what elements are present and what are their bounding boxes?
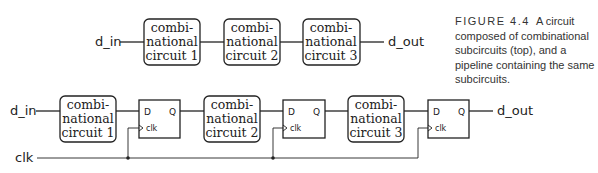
bot-box1-line2: national	[62, 111, 114, 126]
ff3-q-label: Q	[458, 107, 465, 117]
clk-junction-dot	[271, 156, 275, 160]
top-box3-line3: circuit 3	[305, 48, 358, 63]
bot-d-out-label: d_out	[497, 103, 533, 118]
ff1-q-label: Q	[169, 107, 176, 117]
bot-d-in-label: d_in	[10, 103, 37, 118]
ff3-d-label: D	[433, 107, 440, 117]
top-box1-line3: circuit 1	[146, 48, 199, 63]
ff1-clk-label: clk	[146, 124, 158, 133]
ff2-clk-label: clk	[290, 124, 302, 133]
bot-box2-line2: national	[206, 111, 258, 126]
bot-box1-line1: combi-	[67, 97, 110, 112]
clk-junction-dot	[126, 156, 130, 160]
figure-caption: FIGURE 4.4A circuit composed of combinat…	[455, 14, 598, 87]
top-box2-line1: combi-	[231, 20, 274, 35]
top-d-out-label: d_out	[388, 34, 424, 49]
top-box1-line1: combi-	[151, 20, 194, 35]
ff1-d-label: D	[144, 107, 151, 117]
ff2-q-label: Q	[313, 107, 320, 117]
clk-label: clk	[15, 150, 34, 165]
bot-box1-line3: circuit 1	[62, 125, 115, 140]
bot-box2-line1: combi-	[211, 97, 254, 112]
figure-number: FIGURE 4.4	[455, 15, 530, 27]
bot-box3-line3: circuit 3	[350, 125, 403, 140]
top-box1-line2: national	[146, 34, 198, 49]
bot-box3-line1: combi-	[355, 97, 398, 112]
ff3-clk-label: clk	[435, 124, 447, 133]
top-box3-line1: combi-	[310, 20, 353, 35]
top-d-in-label: d_in	[95, 34, 122, 49]
bot-box2-line3: circuit 2	[206, 125, 259, 140]
top-box2-line3: circuit 2	[226, 48, 279, 63]
top-box3-line2: national	[305, 34, 357, 49]
top-box2-line2: national	[226, 34, 278, 49]
bot-box3-line2: national	[350, 111, 402, 126]
ff2-d-label: D	[288, 107, 295, 117]
